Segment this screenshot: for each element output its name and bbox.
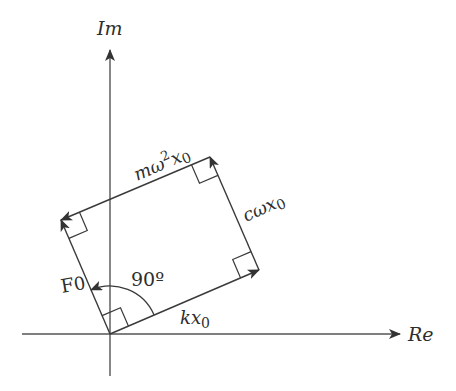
phasor-diagram: Im Re kx0 cωx0 mω2x0 F0 90º [0,0,456,391]
kx0-label: kx0 [180,307,210,331]
cwx0-label: cωx0 [239,189,288,228]
imaginary-axis-label: Im [96,17,123,39]
mw2x0-label: mω2x0 [129,139,194,186]
real-axis-label: Re [407,323,434,345]
angle-label: 90º [131,268,164,290]
f0-label: F0 [59,271,87,297]
